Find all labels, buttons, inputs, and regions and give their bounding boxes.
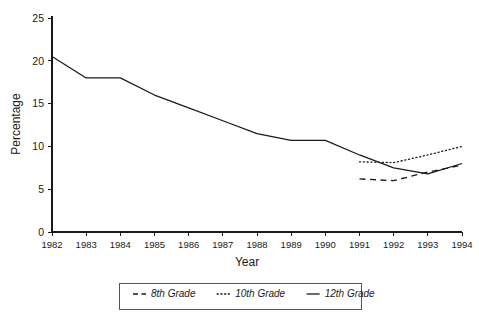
y-tick-label: 25 bbox=[32, 12, 44, 24]
x-tick-label: 1986 bbox=[178, 239, 199, 250]
x-tick-label: 1983 bbox=[76, 239, 97, 250]
x-tick-label: 1991 bbox=[349, 239, 370, 250]
x-tick-label: 1987 bbox=[212, 239, 233, 250]
y-tick-label: 15 bbox=[32, 97, 44, 109]
y-axis-title: Percentage bbox=[9, 93, 23, 155]
legend-label-12th-grade: 12th Grade bbox=[325, 288, 375, 299]
y-tick-label: 10 bbox=[32, 140, 44, 152]
series-layer bbox=[52, 57, 462, 181]
y-axis-ticks: 0510152025 bbox=[32, 12, 52, 238]
y-tick-label: 20 bbox=[32, 55, 44, 67]
y-tick-label: 5 bbox=[38, 183, 44, 195]
line-chart-figure: 0510152025 19821983198419851986198719881… bbox=[0, 0, 479, 326]
y-tick-label: 0 bbox=[38, 226, 44, 238]
x-tick-label: 1994 bbox=[451, 239, 472, 250]
x-tick-label: 1984 bbox=[110, 239, 131, 250]
x-tick-label: 1989 bbox=[281, 239, 302, 250]
x-tick-label: 1993 bbox=[417, 239, 438, 250]
x-axis-title: Year bbox=[235, 255, 259, 269]
x-axis-ticks: 1982198319841985198619871988198919901991… bbox=[41, 232, 472, 250]
series-line-12th-grade bbox=[52, 57, 462, 174]
x-tick-label: 1992 bbox=[383, 239, 404, 250]
legend-label-10th-grade: 10th Grade bbox=[235, 288, 285, 299]
chart-canvas: 0510152025 19821983198419851986198719881… bbox=[0, 0, 479, 326]
x-tick-label: 1982 bbox=[41, 239, 62, 250]
legend-label-8th-grade: 8th Grade bbox=[151, 288, 196, 299]
chart-legend: 8th Grade10th Grade12th Grade bbox=[119, 283, 375, 309]
x-tick-label: 1985 bbox=[144, 239, 165, 250]
x-tick-label: 1988 bbox=[246, 239, 267, 250]
x-tick-label: 1990 bbox=[315, 239, 336, 250]
